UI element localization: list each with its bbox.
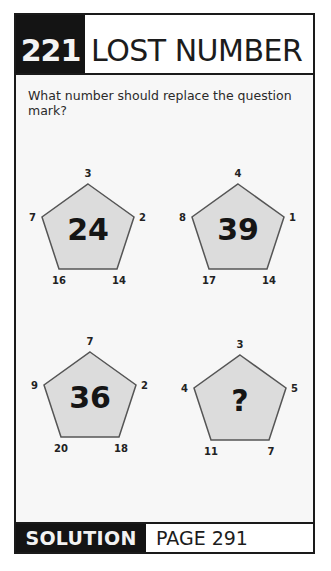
- vertex-right: 1: [289, 212, 296, 223]
- pentagon-2: 39 4 1 14 17 8: [179, 168, 296, 286]
- vertex-top: 4: [235, 168, 242, 179]
- vertex-bottom-left: 16: [52, 275, 66, 286]
- vertex-bottom-right: 14: [262, 275, 276, 286]
- vertex-bottom-left: 20: [54, 443, 68, 454]
- vertex-left: 8: [179, 212, 186, 223]
- pentagon-center-value: 36: [69, 380, 111, 415]
- puzzle-card: 221 LOST NUMBER What number should repla…: [14, 13, 315, 554]
- vertex-top: 3: [85, 168, 92, 179]
- solution-footer: SOLUTION PAGE 291: [16, 522, 313, 552]
- vertex-right: 5: [291, 383, 298, 394]
- pentagon-4: ? 3 5 7 11 4: [181, 339, 298, 457]
- pentagon-center-value: ?: [231, 383, 248, 418]
- pentagon-center-value: 39: [217, 212, 259, 247]
- pentagon-center-value: 24: [67, 212, 109, 247]
- vertex-bottom-right: 18: [114, 443, 128, 454]
- vertex-left: 4: [181, 383, 188, 394]
- vertex-right: 2: [139, 212, 146, 223]
- vertex-right: 2: [141, 380, 148, 391]
- vertex-top: 7: [87, 336, 94, 347]
- vertex-left: 7: [29, 212, 36, 223]
- vertex-bottom-left: 17: [202, 275, 216, 286]
- pentagon-grid: 24 3 2 14 16 7 39 4 1 14 17 8 36 7 2 18 …: [16, 15, 317, 556]
- vertex-left: 9: [31, 380, 38, 391]
- vertex-bottom-right: 7: [268, 446, 275, 457]
- vertex-bottom-right: 14: [112, 275, 126, 286]
- vertex-top: 3: [237, 339, 244, 350]
- pentagon-1: 24 3 2 14 16 7: [29, 168, 146, 286]
- pentagon-3: 36 7 2 18 20 9: [31, 336, 148, 454]
- solution-page-ref: PAGE 291: [146, 524, 313, 552]
- solution-label: SOLUTION: [16, 524, 146, 552]
- vertex-bottom-left: 11: [204, 446, 218, 457]
